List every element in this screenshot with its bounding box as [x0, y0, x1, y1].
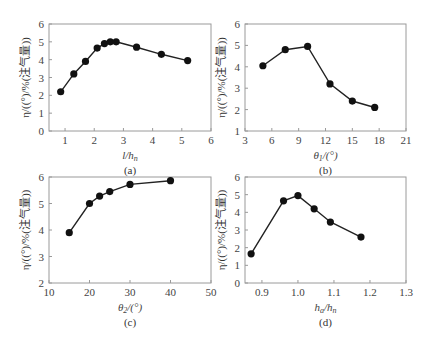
- x-tick-label: 21: [401, 134, 412, 146]
- panel-caption: (c): [124, 316, 137, 329]
- y-tick-label: 1: [235, 125, 241, 137]
- y-tick-label: 3: [235, 82, 241, 94]
- x-tick-label: 20: [84, 286, 96, 298]
- data-point: [57, 88, 64, 95]
- y-axis-label: η/((°)/%(注气量)): [214, 37, 228, 118]
- data-line: [61, 42, 188, 92]
- panel-caption: (b): [319, 164, 332, 177]
- x-tick-label: 15: [347, 134, 359, 146]
- y-tick-label: 6: [235, 18, 241, 30]
- data-point: [184, 57, 191, 64]
- x-tick-label: 50: [206, 286, 218, 298]
- y-tick-label: 4: [235, 61, 241, 73]
- plot-frame: [49, 24, 211, 131]
- y-tick-label: 3: [235, 224, 241, 236]
- data-point: [349, 97, 356, 104]
- y-tick-label: 0: [235, 277, 241, 289]
- figure: 0123456123456l/hn(a)η/((°)/%(注气量))123456…: [0, 0, 433, 340]
- x-axis-label: θ1/(°): [313, 149, 338, 163]
- data-point: [248, 250, 255, 257]
- x-axis-label: l/hn: [122, 149, 138, 163]
- data-point: [82, 58, 89, 65]
- x-tick-label: 30: [125, 286, 137, 298]
- x-tick-label: 2: [91, 134, 97, 146]
- y-tick-label: 2: [235, 104, 241, 116]
- data-point: [126, 181, 133, 188]
- data-point: [304, 43, 311, 50]
- y-tick-label: 6: [39, 18, 45, 30]
- y-tick-label: 5: [235, 39, 241, 51]
- x-tick-label: 10: [44, 286, 56, 298]
- x-tick-label: 40: [165, 286, 177, 298]
- data-point: [327, 218, 334, 225]
- y-tick-label: 1: [39, 107, 45, 119]
- data-point: [66, 229, 73, 236]
- x-tick-label: 9: [296, 134, 302, 146]
- x-tick-label: 6: [269, 134, 275, 146]
- data-point: [326, 80, 333, 87]
- x-tick-label: 12: [320, 134, 331, 146]
- x-tick-label: 3: [242, 134, 248, 146]
- y-tick-label: 3: [39, 72, 45, 84]
- y-tick-label: 3: [39, 251, 45, 263]
- data-point: [311, 205, 318, 212]
- data-point: [294, 192, 301, 199]
- data-point: [86, 200, 93, 207]
- panel-caption: (a): [124, 164, 137, 177]
- data-point: [282, 46, 289, 53]
- data-line: [263, 47, 375, 108]
- x-tick-label: 5: [179, 134, 185, 146]
- y-tick-label: 4: [235, 206, 241, 218]
- chart-panel-a: 0123456123456l/hn(a)η/((°)/%(注气量)): [18, 18, 214, 177]
- data-point: [96, 192, 103, 199]
- y-tick-label: 6: [235, 171, 241, 183]
- plot-frame: [49, 177, 211, 283]
- x-axis-label: θ2/(°): [118, 301, 143, 315]
- x-tick-label: 1.0: [291, 286, 305, 298]
- x-tick-label: 1.3: [399, 286, 413, 298]
- data-point: [158, 51, 165, 58]
- data-point: [113, 38, 120, 45]
- x-tick-label: 1.1: [327, 286, 341, 298]
- data-point: [94, 44, 101, 51]
- panel-caption: (d): [319, 316, 332, 329]
- x-tick-label: 0.9: [255, 286, 269, 298]
- data-line: [251, 196, 361, 254]
- y-tick-label: 6: [39, 171, 45, 183]
- y-tick-label: 4: [39, 54, 45, 66]
- y-tick-label: 1: [235, 259, 241, 271]
- x-tick-label: 4: [150, 134, 156, 146]
- chart-panel-b: 12345636912151821θ1/(°)(b)η/((°)/%(注气量)): [214, 18, 412, 177]
- y-tick-label: 5: [235, 189, 241, 201]
- y-axis-label: η/((°)/%(注气量)): [214, 189, 228, 270]
- data-point: [106, 188, 113, 195]
- x-tick-label: 18: [374, 134, 386, 146]
- plot-frame: [245, 177, 406, 283]
- y-tick-label: 4: [39, 224, 45, 236]
- x-tick-label: 3: [121, 134, 127, 146]
- y-tick-label: 2: [235, 242, 241, 254]
- x-tick-label: 1.2: [363, 286, 377, 298]
- y-axis-label: η/((°)/%(注气量)): [18, 189, 32, 270]
- y-axis-label: η/((°)/%(注气量)): [18, 37, 32, 118]
- data-point: [371, 104, 378, 111]
- data-point: [259, 62, 266, 69]
- x-tick-label: 6: [208, 134, 214, 146]
- y-tick-label: 2: [39, 89, 45, 101]
- data-point: [280, 197, 287, 204]
- y-tick-label: 0: [39, 125, 45, 137]
- chart-panel-c: 234561020304050θ2/(°)(c)η/((°)/%(注气量)): [18, 171, 217, 329]
- data-point: [70, 70, 77, 77]
- x-tick-label: 1: [62, 134, 68, 146]
- data-point: [133, 44, 140, 51]
- chart-panel-d: 01234560.91.01.11.21.3ha/hn(d)η/((°)/%(注…: [214, 171, 413, 329]
- x-axis-label: ha/hn: [314, 301, 336, 315]
- data-point: [167, 177, 174, 184]
- data-point: [357, 233, 364, 240]
- y-tick-label: 5: [39, 36, 45, 48]
- data-line: [69, 181, 170, 233]
- y-tick-label: 5: [39, 198, 45, 210]
